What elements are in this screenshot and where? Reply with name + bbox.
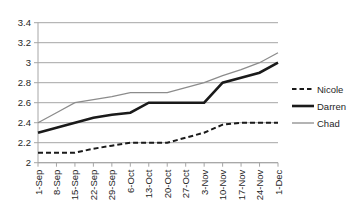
legend-label-darren: Darren	[317, 101, 346, 112]
y-axis-tick-label: 2.2	[18, 137, 31, 148]
legend-item-darren: Darren	[292, 101, 346, 112]
x-axis-tick-label: 13-Oct	[143, 169, 154, 198]
x-axis-tick-label: 29-Sep	[106, 170, 117, 201]
x-axis-tick-label: 3-Nov	[199, 169, 210, 195]
y-axis-tick-label: 2.4	[18, 117, 31, 128]
x-axis-tick-label: 27-Oct	[180, 169, 191, 198]
y-axis-tick-label: 3.4	[18, 17, 31, 28]
x-axis-tick-label: 20-Oct	[162, 169, 173, 198]
y-axis-tick-label: 3.2	[18, 37, 31, 48]
legend: NicoleDarrenChad	[292, 84, 346, 129]
x-axis-tick-label: 10-Nov	[217, 169, 228, 200]
line-chart: 22.22.42.62.833.23.41-Sep8-Sep15-Sep22-S…	[0, 0, 361, 213]
chart-canvas: 22.22.42.62.833.23.41-Sep8-Sep15-Sep22-S…	[0, 0, 361, 213]
x-axis-tick-label: 22-Sep	[88, 170, 99, 201]
y-axis-tick-label: 2	[26, 157, 31, 168]
legend-label-chad: Chad	[317, 118, 340, 129]
x-axis-tick-label: 17-Nov	[236, 169, 247, 200]
legend-item-chad: Chad	[292, 118, 340, 129]
x-axis-tick-label: 1-Sep	[33, 170, 44, 195]
x-axis-tick-label: 6-Oct	[125, 169, 136, 193]
y-axis-tick-label: 3	[26, 57, 31, 68]
x-axis-tick-label: 1-Dec	[273, 169, 284, 195]
y-axis-tick-label: 2.8	[18, 77, 31, 88]
x-axis-tick-label: 24-Nov	[254, 169, 265, 200]
series-line-nicole	[38, 123, 278, 153]
y-axis-tick-label: 2.6	[18, 97, 31, 108]
legend-label-nicole: Nicole	[317, 84, 343, 95]
legend-item-nicole: Nicole	[292, 84, 343, 95]
x-axis-tick-label: 8-Sep	[51, 170, 62, 195]
x-axis-tick-label: 15-Sep	[69, 170, 80, 201]
x-axis-labels: 1-Sep8-Sep15-Sep22-Sep29-Sep6-Oct13-Oct2…	[33, 163, 284, 201]
